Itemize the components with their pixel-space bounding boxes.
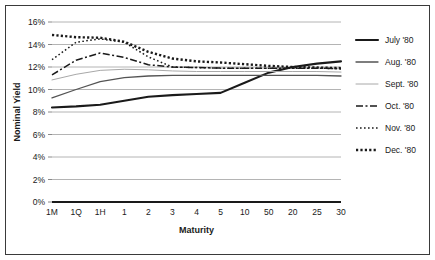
x-tick-label: 25	[312, 207, 322, 217]
x-axis-title: Maturity	[179, 225, 214, 235]
x-tick-label: 4	[194, 207, 199, 217]
legend-label: Dec. '80	[385, 145, 416, 155]
chart-legend: July '80Aug. '80Sept. '80Oct. '80Nov. '8…	[356, 35, 419, 155]
legend-label: July '80	[385, 35, 414, 45]
y-tick-label: 14%	[28, 40, 45, 50]
x-tick-label: 10	[240, 207, 250, 217]
y-axis-title: Nominal Yield	[12, 82, 22, 141]
y-tick-label: 6%	[33, 130, 46, 140]
x-tick-labels: 1M1Q1H123451050202530	[46, 207, 346, 217]
series-line	[52, 69, 341, 80]
x-tick-label: 20	[288, 207, 298, 217]
y-tick-label: 16%	[28, 17, 45, 27]
legend-label: Nov. '80	[385, 123, 416, 133]
x-tick-label: 50	[264, 207, 274, 217]
legend-label: Aug. '80	[385, 57, 416, 67]
y-tick-label: 12%	[28, 62, 45, 72]
legend-label: Oct. '80	[385, 101, 414, 111]
chart-figure: 0%2%4%6%8%10%12%14%16%1M1Q1H123451050202…	[0, 0, 435, 260]
x-tick-label: 1	[122, 207, 127, 217]
legend-item[interactable]: Dec. '80	[356, 145, 416, 155]
y-gridlines: 0%2%4%6%8%10%12%14%16%	[28, 17, 341, 207]
x-tick-label: 5	[218, 207, 223, 217]
x-tick-label: 1H	[95, 207, 106, 217]
y-tick-label: 8%	[33, 107, 46, 117]
y-tick-label: 4%	[33, 152, 46, 162]
y-tick-label: 2%	[33, 175, 46, 185]
x-tick-label: 1M	[46, 207, 58, 217]
legend-label: Sept. '80	[385, 79, 419, 89]
x-tick-label: 3	[170, 207, 175, 217]
series-group	[52, 35, 341, 108]
legend-item[interactable]: July '80	[356, 35, 414, 45]
legend-item[interactable]: Aug. '80	[356, 57, 416, 67]
x-tick-label: 1Q	[70, 207, 82, 217]
x-tick-label: 30	[336, 207, 346, 217]
legend-item[interactable]: Sept. '80	[356, 79, 419, 89]
legend-item[interactable]: Oct. '80	[356, 101, 414, 111]
line-chart: 0%2%4%6%8%10%12%14%16%1M1Q1H123451050202…	[0, 0, 435, 260]
y-tick-label: 0%	[33, 197, 46, 207]
x-tick-label: 2	[146, 207, 151, 217]
y-tick-label: 10%	[28, 85, 45, 95]
legend-item[interactable]: Nov. '80	[356, 123, 416, 133]
